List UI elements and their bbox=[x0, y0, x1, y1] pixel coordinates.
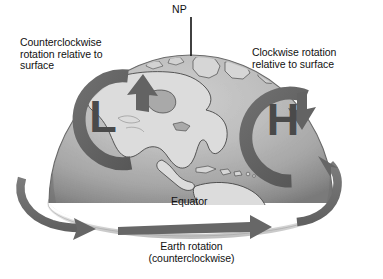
equator-label: Equator bbox=[171, 196, 207, 208]
bottom-caption: Earth rotation (counterclockwise) bbox=[0, 240, 383, 265]
low-pressure-symbol: L bbox=[89, 91, 117, 142]
right-caption: Clockwise rotation relative to surface bbox=[252, 47, 382, 70]
high-pressure-symbol: H bbox=[267, 94, 300, 145]
north-pole-label: NP bbox=[172, 4, 187, 16]
left-caption: Counterclockwise rotation relative to su… bbox=[20, 37, 160, 72]
